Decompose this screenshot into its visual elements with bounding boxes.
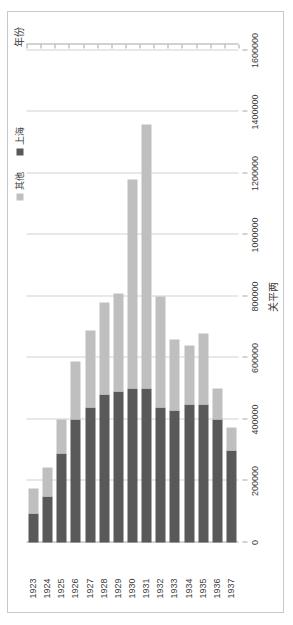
category-axis-tick	[167, 44, 168, 48]
category-axis-tick	[111, 44, 112, 48]
category-axis-label: 1933	[168, 578, 178, 598]
value-axis-tick	[242, 111, 247, 112]
bar-segment-other	[184, 345, 194, 403]
category-axis-tick	[83, 44, 84, 48]
chart-frame: 0200000400000600000800000100000012000001…	[7, 11, 284, 613]
category-axis-label: 1929	[112, 578, 122, 598]
bar-group	[68, 50, 82, 542]
bar-segment-other	[70, 361, 80, 419]
category-axis-label: 1923	[27, 578, 37, 598]
bar-segment-shanghai	[127, 388, 137, 542]
plot-area	[26, 50, 238, 542]
bar-segment-other	[127, 179, 137, 388]
category-axis-tick	[54, 44, 55, 48]
value-axis-label: 1200000	[249, 155, 259, 190]
value-axis-label: 0	[249, 539, 259, 544]
category-axis-tick	[139, 44, 140, 48]
category-axis-label: 1928	[98, 578, 108, 598]
bar-segment-shanghai	[42, 496, 52, 542]
bar-segment-other	[169, 339, 179, 410]
category-axis-title: 年份	[10, 26, 25, 46]
category-axis-tick	[153, 44, 154, 48]
bar-group	[196, 50, 210, 542]
rotated-chart-canvas: 0200000400000600000800000100000012000001…	[8, 12, 283, 612]
category-axis-label: 1932	[154, 578, 164, 598]
bar-segment-shanghai	[56, 453, 66, 542]
category-axis-label: 1937	[225, 578, 235, 598]
bar-group	[210, 50, 224, 542]
bar-group	[83, 50, 97, 542]
category-axis-label: 1934	[183, 578, 193, 598]
bar-segment-shanghai	[155, 407, 165, 542]
category-axis-tick	[196, 44, 197, 48]
category-axis-label: 1924	[41, 578, 51, 598]
bar-segment-other	[226, 427, 236, 450]
category-axis-line	[26, 43, 238, 44]
bar-segment-shanghai	[28, 513, 38, 542]
bar-segment-other	[42, 467, 52, 496]
category-axis-label: 1935	[197, 578, 207, 598]
bar-segment-other	[28, 488, 38, 513]
bar-group	[153, 50, 167, 542]
value-axis-label: 200000	[249, 465, 259, 495]
bar-group	[125, 50, 139, 542]
bar-segment-other	[113, 293, 123, 391]
bar-segment-shanghai	[99, 394, 109, 542]
bar-segment-shanghai	[226, 450, 236, 542]
bar-segment-shanghai	[141, 388, 151, 542]
bar-group	[167, 50, 181, 542]
category-axis-tick	[68, 44, 69, 48]
category-axis-tick	[181, 44, 182, 48]
bar-segment-other	[56, 419, 66, 453]
value-axis-tick	[242, 541, 247, 542]
category-axis-tick	[40, 44, 41, 48]
category-axis-tick	[97, 44, 98, 48]
legend-item[interactable]: 上海	[12, 126, 25, 155]
value-axis-tick	[242, 172, 247, 173]
bar-segment-shanghai	[184, 404, 194, 542]
value-axis-label: 800000	[249, 281, 259, 311]
value-axis-tick	[242, 234, 247, 235]
bar-segment-other	[141, 124, 151, 388]
bar-group	[54, 50, 68, 542]
value-axis-tick	[242, 418, 247, 419]
value-axis-label: 400000	[249, 404, 259, 434]
value-axis-tick	[242, 480, 247, 481]
bar-segment-other	[155, 296, 165, 407]
legend-item-label: 其他	[14, 171, 24, 189]
value-axis-title: 关平两	[264, 50, 279, 542]
value-axis-label: 1400000	[249, 94, 259, 129]
bar-segment-shanghai	[169, 410, 179, 542]
value-axis-tick	[242, 49, 247, 50]
value-axis-tick	[242, 295, 247, 296]
bar-group	[40, 50, 54, 542]
bar-group	[97, 50, 111, 542]
bar-segment-other	[212, 388, 222, 419]
bar-segment-shanghai	[198, 404, 208, 542]
legend-item-label: 上海	[14, 126, 24, 144]
category-axis-label: 1936	[211, 578, 221, 598]
bar-group	[111, 50, 125, 542]
category-axis-label: 1926	[69, 578, 79, 598]
bar-segment-shanghai	[212, 419, 222, 542]
bar-segment-other	[85, 330, 95, 407]
category-axis-tick	[224, 44, 225, 48]
category-axis-label: 1927	[84, 578, 94, 598]
value-axis-tick	[242, 357, 247, 358]
bar-segment-shanghai	[113, 391, 123, 542]
legend-item[interactable]: 其他	[12, 171, 25, 200]
bar-segment-shanghai	[70, 419, 80, 542]
bar-group	[26, 50, 40, 542]
bar-group	[181, 50, 195, 542]
chart-legend: 其他上海	[8, 110, 26, 200]
category-axis-label: 1931	[140, 578, 150, 598]
bar-segment-other	[99, 302, 109, 394]
value-axis-label: 1600000	[249, 32, 259, 67]
bar-segment-other	[198, 333, 208, 404]
category-axis-label: 1930	[126, 578, 136, 598]
value-axis-label: 1000000	[249, 217, 259, 252]
light-gray-swatch-icon	[16, 193, 23, 200]
category-axis-tick	[238, 44, 239, 48]
value-axis-label: 600000	[249, 342, 259, 372]
bar-group	[139, 50, 153, 542]
